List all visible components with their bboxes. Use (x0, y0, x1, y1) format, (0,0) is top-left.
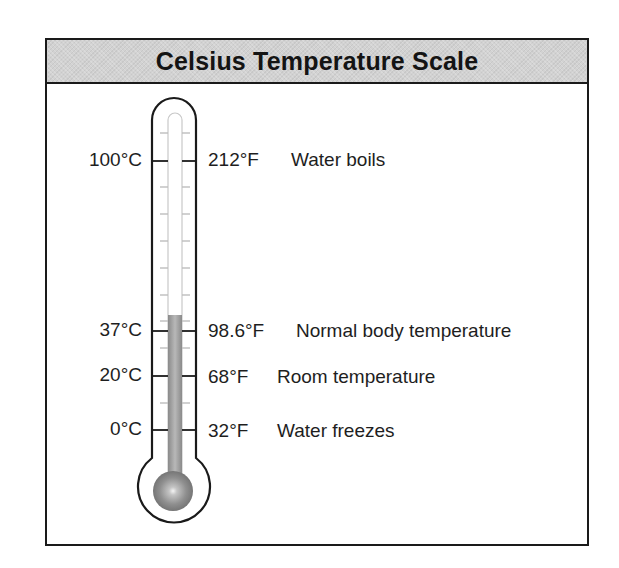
celsius-label-100: 100°C (52, 149, 142, 171)
fahrenheit-label-68: 68°F (208, 366, 248, 388)
description-normal-body-temperature: Normal body temperature (296, 320, 511, 342)
celsius-label-37: 37°C (52, 319, 142, 341)
description-room-temperature: Room temperature (277, 366, 435, 388)
thermometer-icon (0, 0, 619, 568)
description-water-boils: Water boils (291, 149, 385, 171)
celsius-label-20: 20°C (52, 364, 142, 386)
mercury-bulb (153, 471, 193, 511)
mercury-column (168, 315, 182, 480)
fahrenheit-label-98-6: 98.6°F (208, 320, 264, 342)
description-water-freezes: Water freezes (277, 420, 395, 442)
fahrenheit-label-32: 32°F (208, 420, 248, 442)
fahrenheit-label-212: 212°F (208, 149, 259, 171)
celsius-label-0: 0°C (52, 418, 142, 440)
